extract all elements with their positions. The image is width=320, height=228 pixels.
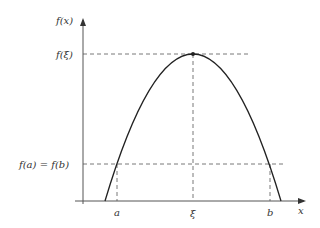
x-tick-label-b: b: [267, 207, 273, 218]
y-tick-label-f-a-f-b: f(a) = f(b): [18, 159, 69, 170]
y-axis-label: f(x): [55, 15, 73, 26]
y-tick-label-f-xi: f(ξ): [55, 49, 73, 60]
x-axis-label: x: [298, 205, 304, 216]
x-tick-label-xi: ξ: [190, 208, 196, 219]
peak-point: [191, 52, 195, 56]
x-tick-label-a: a: [114, 207, 120, 218]
rolle-diagram: f(x) f(ξ) f(a) = f(b) a ξ b x: [0, 0, 320, 228]
